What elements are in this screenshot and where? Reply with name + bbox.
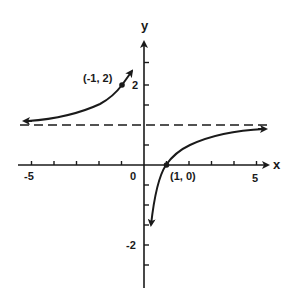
x-tick-label-neg5: -5 bbox=[24, 170, 34, 182]
point-1-0 bbox=[164, 162, 170, 168]
right-branch-curve bbox=[151, 129, 264, 225]
x-tick-label-5: 5 bbox=[252, 172, 258, 184]
y-axis-label: y bbox=[141, 18, 149, 33]
point-label-1-0: (1, 0) bbox=[170, 170, 196, 182]
x-axis-label: x bbox=[273, 157, 281, 172]
y-tick-label-neg2: -2 bbox=[126, 239, 136, 251]
point-label-neg1-2: (-1, 2) bbox=[83, 72, 113, 84]
y-tick-label-2: 2 bbox=[132, 79, 138, 91]
point-neg1-2 bbox=[119, 82, 125, 88]
left-branch-curve bbox=[28, 71, 132, 121]
x-axis bbox=[18, 161, 268, 165]
x-tick-label-0: 0 bbox=[130, 170, 136, 182]
rational-function-graph: y x -5 0 5 2 -2 (-1, 2) (1, 0) bbox=[0, 0, 286, 296]
